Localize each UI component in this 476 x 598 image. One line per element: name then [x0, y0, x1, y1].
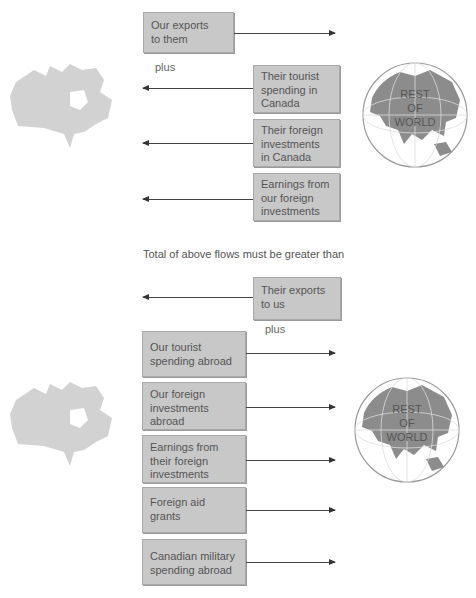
- globe-label-line1: REST: [400, 88, 430, 100]
- box-their-foreign-investments: Their foreign investments in Canada: [253, 119, 340, 167]
- arrow-left-tourist: [143, 88, 253, 89]
- box-their-exports-to-us: Their exports to us: [253, 277, 341, 320]
- globe-label-line3: WORLD: [387, 431, 428, 443]
- globe-label-line3: WORLD: [395, 116, 436, 128]
- globe-bottom: REST OF WORLD: [352, 375, 462, 489]
- globe-label-line2: OF: [407, 102, 423, 114]
- arrow-right-earnings-their: [246, 460, 335, 461]
- comparison-text: Total of above flows must be greater tha…: [143, 248, 344, 260]
- box-our-exports-to-them: Our exports to them: [143, 12, 234, 53]
- box-our-tourist-spending-abroad: Our tourist spending abroad: [142, 331, 246, 377]
- arrow-right-military: [246, 562, 335, 563]
- arrow-left-their-exports: [143, 297, 253, 298]
- box-their-tourist-spending: Their tourist spending in Canada: [253, 65, 340, 113]
- box-foreign-aid-grants: Foreign aid grants: [142, 487, 246, 533]
- plus-label-top: plus: [155, 61, 175, 73]
- canada-map-top: [4, 62, 114, 156]
- box-our-foreign-investments-abroad: Our foreign investments abroad: [142, 382, 246, 430]
- globe-label-line2: OF: [399, 417, 415, 429]
- arrow-right-exports: [234, 33, 335, 34]
- plus-label-bottom: plus: [265, 323, 285, 335]
- canada-map-bottom: [4, 380, 114, 474]
- arrow-right-tourist-abroad: [246, 353, 335, 354]
- arrow-right-foreign-aid: [246, 510, 335, 511]
- arrow-left-investments: [143, 143, 253, 144]
- arrow-left-earnings: [143, 199, 253, 200]
- box-earnings-our-foreign-investments: Earnings from our foreign investments: [253, 173, 340, 221]
- box-earnings-their-foreign-investments: Earnings from their foreign investments: [142, 435, 246, 483]
- arrow-right-investments-abroad: [246, 407, 335, 408]
- globe-top: REST OF WORLD: [360, 60, 470, 174]
- globe-label-line1: REST: [392, 403, 422, 415]
- box-canadian-military-spending: Canadian military spending abroad: [142, 539, 246, 585]
